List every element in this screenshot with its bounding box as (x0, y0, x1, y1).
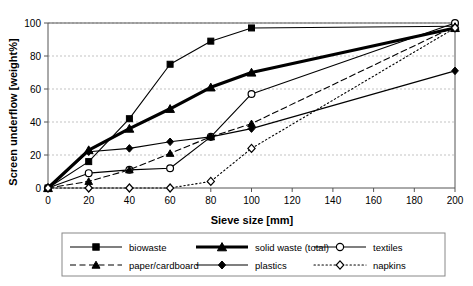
x-tick-label-0: 0 (45, 195, 51, 206)
legend-marker-filled-square (93, 244, 99, 250)
x-tick-label-140: 140 (325, 195, 342, 206)
legend-label: napkins (373, 260, 406, 271)
data-point (126, 116, 132, 122)
x-tick-label-200: 200 (447, 195, 464, 206)
y-tick-label-80: 80 (30, 51, 42, 62)
x-axis-title: Sieve size [mm] (211, 214, 294, 226)
x-tick-label-60: 60 (165, 195, 177, 206)
data-point (86, 159, 92, 165)
x-tick-label-100: 100 (243, 195, 260, 206)
data-point (249, 25, 255, 31)
y-tick-label-100: 100 (24, 18, 41, 29)
x-tick-label-120: 120 (284, 195, 301, 206)
data-point (167, 165, 174, 172)
x-tick-label-160: 160 (365, 195, 382, 206)
y-axis-title: Screen underflow [weight%] (7, 38, 19, 186)
chart-figure: 020406080100120140160180200 020406080100… (0, 0, 473, 286)
y-tick-label-60: 60 (30, 84, 42, 95)
y-tick-label-20: 20 (30, 150, 42, 161)
x-tick-label-40: 40 (124, 195, 136, 206)
sieve-curve-chart: 020406080100120140160180200 020406080100… (0, 0, 473, 286)
data-point (248, 91, 255, 98)
data-point (85, 170, 92, 177)
x-tick-label-180: 180 (406, 195, 423, 206)
data-point (208, 38, 214, 44)
y-tick-label-40: 40 (30, 117, 42, 128)
legend-label: textiles (373, 242, 403, 253)
legend-label: plastics (255, 260, 287, 271)
legend-label: paper/cardboard (129, 260, 199, 271)
x-tick-label-20: 20 (83, 195, 95, 206)
legend-label: biowaste (129, 242, 167, 253)
x-tick-label-80: 80 (205, 195, 217, 206)
legend-marker-open-circle (336, 243, 343, 250)
y-tick-label-0: 0 (35, 183, 41, 194)
data-point (167, 61, 173, 67)
